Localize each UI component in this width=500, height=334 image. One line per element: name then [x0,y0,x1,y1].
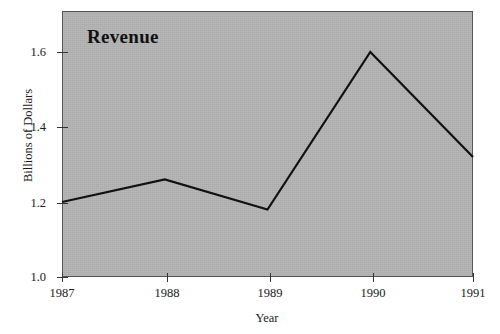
xtick-label-1990: 1990 [343,286,403,301]
xtick-mark-1990 [373,273,374,282]
xtick-mark-1989 [270,273,271,282]
chart-figure: Revenue 1.6 1.4 1.2 1.0 1987 1988 1989 1… [0,0,500,334]
ytick-mark-1-6 [57,52,68,53]
xtick-label-1988: 1988 [137,286,197,301]
xtick-mark-1988 [167,273,168,282]
ytick-mark-1-2 [57,203,68,204]
ytick-mark-1-4 [57,127,68,128]
y-axis-label: Billions of Dollars [21,56,36,216]
xtick-label-1987: 1987 [32,286,92,301]
xtick-mark-1987 [62,273,63,282]
xtick-label-1991: 1991 [443,286,500,301]
x-axis-label: Year [255,311,278,325]
xtick-label-1989: 1989 [240,286,300,301]
chart-title: Revenue [87,26,159,48]
x-axis-label-container: Year [0,311,500,326]
xtick-mark-1991 [473,273,474,282]
plot-texture-overlay [63,12,472,276]
ytick-label-1-0: 1.0 [12,270,46,285]
plot-area: Revenue [62,11,473,277]
